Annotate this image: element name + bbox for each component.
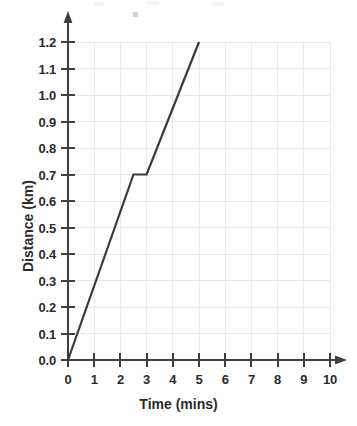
x-tick-label: 6	[222, 372, 229, 387]
x-axis-arrow	[335, 356, 347, 365]
y-axis	[61, 11, 75, 360]
x-tick-label: 8	[274, 372, 281, 387]
y-tick-label: 1.1	[14, 61, 56, 76]
x-tick-label: 3	[143, 372, 150, 387]
x-tick-label: 7	[248, 372, 255, 387]
x-tick-label: 1	[91, 372, 98, 387]
y-tick-label: 1.2	[14, 35, 56, 50]
x-tick-label: 0	[64, 372, 71, 387]
x-tick-label: 5	[195, 372, 202, 387]
y-axis-title: Distance (km)	[20, 180, 36, 272]
x-tick-label: 9	[300, 372, 307, 387]
x-tick-label: 2	[117, 372, 124, 387]
x-tick-label: 10	[323, 372, 337, 387]
x-tick-label: 4	[169, 372, 176, 387]
y-tick-label: 1.0	[14, 88, 56, 103]
y-tick-label: 0.0	[14, 353, 56, 368]
distance-time-chart: 0.0 0.1 0.2 0.3 0.4 0.5 0.6 0.7 0.8 0.9 …	[0, 0, 357, 426]
grid-lines	[68, 42, 330, 360]
x-axis-title: Time (mins)	[0, 396, 357, 412]
y-tick-label: 0.1	[14, 326, 56, 341]
y-axis-arrow	[64, 11, 73, 23]
y-tick-label: 0.2	[14, 300, 56, 315]
x-axis	[68, 353, 347, 367]
y-tick-label: 0.3	[14, 273, 56, 288]
y-tick-label: 0.8	[14, 141, 56, 156]
y-tick-label: 0.9	[14, 114, 56, 129]
